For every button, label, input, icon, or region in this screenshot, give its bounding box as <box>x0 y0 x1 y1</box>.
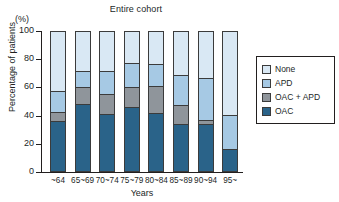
stacked-bar <box>222 31 238 172</box>
y-axis-tick-label: 60 <box>24 81 34 91</box>
bar-segment <box>76 72 90 87</box>
bar-segment <box>223 150 237 171</box>
bar-segment <box>174 76 188 105</box>
bar-segment <box>174 125 188 171</box>
chart-title: Entire cohort <box>46 4 226 14</box>
y-axis-unit-label: (%) <box>15 14 29 24</box>
y-axis-tick-label: 0 <box>29 166 34 176</box>
legend-item-label: APD <box>275 78 292 88</box>
stacked-bar <box>148 31 164 172</box>
bar-segment <box>100 32 114 72</box>
y-axis-line <box>41 31 42 172</box>
x-axis-tick-label: 95~ <box>213 176 247 185</box>
y-axis-tick: 40 <box>36 116 41 117</box>
bar-segment <box>199 125 213 171</box>
stacked-bar <box>99 31 115 172</box>
bar-segment <box>125 64 139 88</box>
x-axis-title: Years <box>41 188 243 198</box>
chart-figure: Entire cohort (%) Percentage of patients… <box>0 0 339 202</box>
stacked-bar <box>173 31 189 172</box>
bar-segment <box>100 95 114 116</box>
bar-segment <box>100 72 114 94</box>
legend-item: None <box>262 62 330 76</box>
y-axis-tick: 60 <box>36 87 41 88</box>
legend-item: OAC + APD <box>262 90 330 104</box>
bar-segment <box>199 32 213 79</box>
chart-legend: NoneAPDOAC + APDOAC <box>256 56 335 124</box>
y-axis-tick-label: 40 <box>24 110 34 120</box>
y-axis-tick-label: 20 <box>24 138 34 148</box>
bar-segment <box>125 32 139 64</box>
stacked-bar <box>124 31 140 172</box>
stacked-bar <box>50 31 66 172</box>
y-axis-tick-label: 80 <box>24 53 34 63</box>
bar-segment <box>199 79 213 121</box>
y-axis-tick: 20 <box>36 144 41 145</box>
legend-swatch-icon <box>262 107 271 116</box>
bar-segment <box>174 32 188 76</box>
stacked-bar <box>75 31 91 172</box>
bar-segment <box>223 32 237 116</box>
legend-swatch-icon <box>262 93 271 102</box>
bar-segment <box>174 106 188 125</box>
bar-segment <box>51 122 65 171</box>
bar-segment <box>125 88 139 109</box>
legend-item-label: None <box>275 64 295 74</box>
legend-swatch-icon <box>262 79 271 88</box>
y-axis-tick: 100 <box>36 31 41 32</box>
bar-segment <box>223 116 237 150</box>
bar-segment <box>51 113 65 123</box>
bar-segment <box>100 115 114 171</box>
y-axis-title: Percentage of patients <box>7 7 17 127</box>
plot-area: 020406080100 ~6465~6970~7475~7980~8485~8… <box>41 31 243 172</box>
y-axis-tick: 0 <box>36 172 41 173</box>
bar-segment <box>76 105 90 171</box>
bar-segment <box>125 108 139 171</box>
legend-item: OAC <box>262 104 330 118</box>
bar-segment <box>149 114 163 171</box>
legend-item-label: OAC <box>275 106 293 116</box>
bar-segment <box>51 92 65 113</box>
bar-segment <box>76 88 90 105</box>
bar-segment <box>149 65 163 87</box>
legend-item: APD <box>262 76 330 90</box>
y-axis-tick-label: 100 <box>19 25 34 35</box>
x-axis-line <box>41 172 243 173</box>
y-axis-tick: 80 <box>36 59 41 60</box>
legend-swatch-icon <box>262 65 271 74</box>
bar-segment <box>51 32 65 92</box>
stacked-bar <box>198 31 214 172</box>
bar-segment <box>76 32 90 72</box>
legend-item-label: OAC + APD <box>275 92 320 102</box>
bar-segment <box>149 32 163 65</box>
bar-segment <box>149 87 163 114</box>
